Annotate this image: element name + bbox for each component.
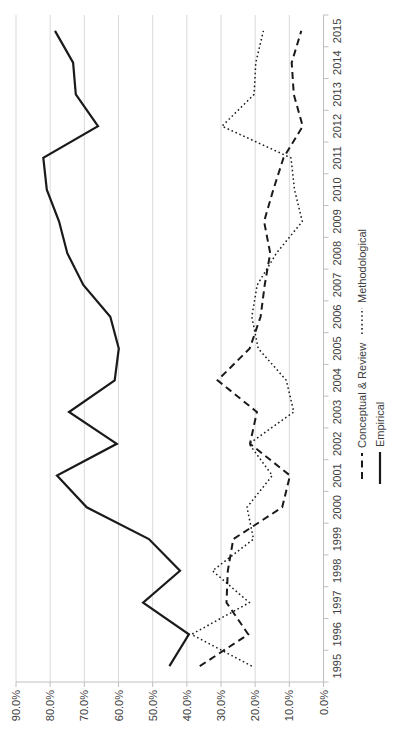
category-axis-label-2009: 2009 [331,209,343,233]
value-axis-label: 30.0% [215,690,227,721]
value-axis-label: 80.0% [44,690,56,721]
value-axis-label: 0.0% [318,690,330,715]
value-axis-label: 10.0% [283,690,295,721]
category-axis-label-2004: 2004 [331,368,343,392]
legend-label-conceptual-review: Conceptual & Review [356,343,368,448]
page: 0.0%10.0%20.0%30.0%40.0%50.0%60.0%70.0%8… [0,0,397,736]
value-axis-label: 60.0% [113,690,125,721]
category-axis-label-2011: 2011 [331,146,343,170]
category-axis-label-2002: 2002 [331,432,343,456]
value-axis-label: 90.0% [10,690,22,721]
value-axis-label: 40.0% [181,690,193,721]
category-axis-label-2000: 2000 [331,495,343,519]
category-axis-label-1995: 1995 [331,654,343,678]
category-axis-label-2007: 2007 [331,273,343,297]
category-axis-label-2013: 2013 [331,82,343,106]
category-axis-label-2015: 2015 [331,19,343,43]
legend-item-conceptual-review: Conceptual & Review [356,343,368,479]
category-axis-label-1996: 1996 [331,622,343,646]
category-axis-label-2006: 2006 [331,304,343,328]
category-axis-label-2003: 2003 [331,400,343,424]
category-axis-label-2001: 2001 [331,463,343,487]
legend-item-methodological: Methodological [356,229,368,334]
category-axis-label-2010: 2010 [331,177,343,201]
line-chart-canvas: 0.0%10.0%20.0%30.0%40.0%50.0%60.0%70.0%8… [0,0,397,736]
category-axis-label-1997: 1997 [331,590,343,614]
category-axis-label-2008: 2008 [331,241,343,265]
category-axis-label-1999: 1999 [331,527,343,551]
category-axis-label-1998: 1998 [331,559,343,583]
legend-label-methodological: Methodological [356,229,368,303]
conceptual-review-line [200,31,303,666]
series [43,31,302,666]
category-axis-label-2012: 2012 [331,114,343,138]
value-axis-label: 70.0% [78,690,90,721]
methodological-line [192,31,303,666]
legend-item-empirical: Empirical [374,402,386,484]
category-axis-label-2014: 2014 [331,50,343,74]
legend-label-empirical: Empirical [374,402,386,447]
empirical-line [43,31,189,666]
legend: Conceptual & ReviewMethodologicalEmpiric… [356,229,386,484]
value-axis-label: 50.0% [147,690,159,721]
category-axis-label-2005: 2005 [331,336,343,360]
value-axis-label: 20.0% [249,690,261,721]
rotated-chart-container: 0.0%10.0%20.0%30.0%40.0%50.0%60.0%70.0%8… [0,0,397,736]
value-axis [16,682,324,687]
category-axis [324,15,329,682]
